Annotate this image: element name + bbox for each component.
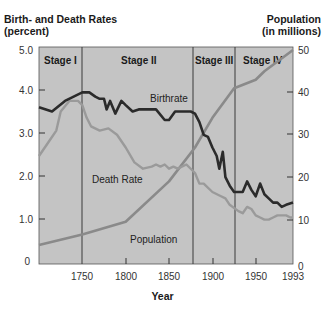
x-axis-title: Year (0, 290, 325, 302)
birthrate-label: Birthrate (150, 93, 188, 104)
x-tick-1993: 1993 (282, 271, 305, 282)
right-tick-5: 50 (298, 45, 310, 56)
right-tick-2: 20 (298, 172, 310, 183)
x-tick-1800: 1800 (115, 271, 138, 282)
stage-label-2: Stage II (121, 55, 157, 66)
right-tick-4: 40 (298, 87, 310, 98)
left-axis-tick-labels: 0 1.0 2.0 3.0 4.0 5.0 (19, 45, 33, 267)
left-tick-0: 0 (24, 256, 30, 267)
x-tick-1950: 1950 (245, 271, 268, 282)
right-axis-tick-labels: 0 10 20 30 40 50 (298, 45, 310, 272)
right-tick-1: 10 (298, 215, 310, 226)
stage-label-3: Stage III (195, 55, 234, 66)
x-tick-1750: 1750 (71, 271, 94, 282)
left-tick-1: 1.0 (19, 214, 33, 225)
x-tick-1850: 1850 (158, 271, 181, 282)
left-tick-2: 2.0 (19, 171, 33, 182)
death-rate-label: Death Rate (92, 174, 143, 185)
chart-svg: Stage I Stage II Stage III Stage IV 0 1.… (0, 0, 325, 312)
x-tick-1900: 1900 (202, 271, 225, 282)
left-tick-3: 3.0 (19, 128, 33, 139)
right-tick-3: 30 (298, 129, 310, 140)
left-tick-5: 5.0 (19, 45, 33, 56)
left-tick-4: 4.0 (19, 85, 33, 96)
x-axis-tick-labels: 1750 1800 1850 1900 1950 1993 (71, 271, 305, 282)
stage-label-1: Stage I (44, 55, 77, 66)
population-label: Population (130, 234, 177, 245)
